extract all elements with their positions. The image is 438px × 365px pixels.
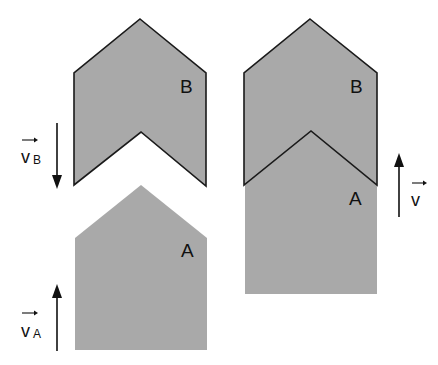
- velocity-b-symbol: v: [21, 147, 30, 167]
- right-object-b-label: B: [350, 76, 363, 97]
- left-panel: B A v B v A: [21, 19, 207, 351]
- velocity-a-subscript: A: [33, 327, 41, 341]
- arrow-up-icon: [52, 284, 62, 298]
- arrow-down-icon: [52, 175, 62, 189]
- right-object-a-label: A: [349, 188, 362, 209]
- arrow-up-icon: [394, 153, 404, 167]
- left-object-b-label: B: [180, 76, 193, 97]
- velocity-b-subscript: B: [33, 153, 41, 167]
- velocity-symbol: v: [411, 190, 420, 210]
- left-object-a-label: A: [181, 240, 194, 261]
- right-panel: A B v: [244, 19, 427, 294]
- left-object-b: B: [74, 19, 206, 186]
- collision-diagram: B A v B v A A: [0, 0, 438, 365]
- velocity-arrow: v: [394, 153, 427, 217]
- velocity-a-arrow: v A: [21, 284, 62, 351]
- left-object-a: A: [75, 185, 207, 350]
- velocity-b-arrow: v B: [21, 123, 62, 189]
- velocity-a-symbol: v: [21, 321, 30, 341]
